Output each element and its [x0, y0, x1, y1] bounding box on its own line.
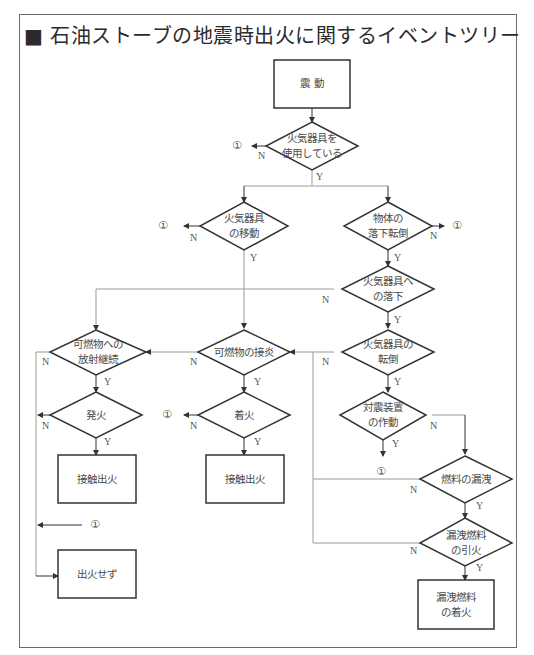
node-appliance-tip: 火気器具の転倒 — [342, 337, 434, 367]
node-fall-onto-appliance: 火気器具への落下 — [342, 274, 434, 304]
yes-label: Y — [316, 171, 323, 182]
no-label: N — [322, 294, 329, 305]
reference-marker-1: ① — [452, 219, 462, 232]
reference-marker-1: ① — [376, 465, 386, 478]
yes-label: Y — [104, 436, 111, 447]
node-ignition-2: 着火 — [198, 408, 290, 423]
no-label: N — [430, 420, 437, 431]
no-label: N — [190, 356, 197, 367]
no-label: N — [410, 545, 417, 556]
yes-label: Y — [104, 376, 111, 387]
node-start: 震 動 — [274, 76, 350, 91]
outcome-contact-fire-2: 接触出火 — [206, 472, 284, 487]
node-appliance-moved: 火気器具の移動 — [200, 211, 288, 241]
no-label: N — [322, 356, 329, 367]
no-label: N — [190, 420, 197, 431]
node-radiant-heat: 可燃物への放射継続 — [50, 337, 146, 367]
node-flame-contact: 可燃物の接炎 — [198, 345, 290, 360]
reference-marker-1: ① — [162, 408, 172, 421]
yes-label: Y — [394, 314, 401, 325]
outcome-no-fire: 出火せず — [58, 567, 136, 582]
reference-marker-1: ① — [158, 219, 168, 232]
no-label: N — [410, 484, 417, 495]
node-leak-ignition: 漏洩燃料の引火 — [420, 528, 512, 558]
reference-marker-1: ① — [232, 139, 242, 152]
no-label: N — [430, 230, 437, 241]
no-label: N — [190, 232, 197, 243]
outcome-leaked-fuel-fire: 漏洩燃料の着火 — [418, 590, 494, 620]
no-label: N — [42, 356, 49, 367]
outcome-contact-fire-1: 接触出火 — [58, 472, 136, 487]
node-object-fall: 物体の落下転倒 — [344, 211, 432, 241]
node-fuel-leak: 燃料の漏洩 — [420, 472, 512, 487]
node-using-fire-appliance: 火気器具を使用している — [266, 131, 358, 161]
no-label: N — [258, 150, 265, 161]
yes-label: Y — [476, 500, 483, 511]
yes-label: Y — [250, 252, 257, 263]
yes-label: Y — [254, 376, 261, 387]
node-ignition-1: 発火 — [50, 408, 142, 423]
reference-marker-1: ① — [90, 518, 100, 531]
node-safety-device: 対震装置の作動 — [340, 400, 426, 430]
yes-label: Y — [476, 562, 483, 573]
yes-label: Y — [394, 376, 401, 387]
yes-label: Y — [394, 252, 401, 263]
yes-label: Y — [254, 436, 261, 447]
yes-label: Y — [392, 438, 399, 449]
no-label: N — [42, 420, 49, 431]
